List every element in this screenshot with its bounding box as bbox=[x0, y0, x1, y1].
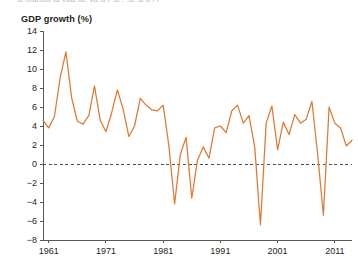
y-tick-label: 14 bbox=[27, 26, 37, 36]
gdp-growth-series-line bbox=[43, 52, 352, 225]
chart-axis-title: GDP growth (%) bbox=[21, 14, 92, 24]
y-tick-label: −6 bbox=[27, 216, 37, 226]
plot-area: −8−6−4−202468101214 19611971198119912001… bbox=[0, 26, 358, 265]
y-tick-label: 4 bbox=[32, 121, 37, 131]
y-tick-label: 10 bbox=[27, 64, 37, 74]
y-tick-label: −8 bbox=[27, 235, 37, 245]
x-tick-label: 1991 bbox=[210, 246, 230, 256]
y-tick-label: 12 bbox=[27, 45, 37, 55]
y-axis-ticks: −8−6−4−202468101214 bbox=[27, 26, 43, 245]
x-tick-label: 1971 bbox=[96, 246, 116, 256]
cropped-header-text: a manao la vaa la. va g j .a , .a. a g j… bbox=[18, 0, 358, 2]
x-tick-label: 1981 bbox=[153, 246, 173, 256]
x-tick-label: 1961 bbox=[39, 246, 59, 256]
x-tick-label: 2011 bbox=[325, 246, 344, 256]
line-chart-svg: −8−6−4−202468101214 19611971198119912001… bbox=[0, 26, 358, 265]
x-tick-label: 2001 bbox=[268, 246, 288, 256]
y-tick-label: 8 bbox=[32, 83, 37, 93]
y-tick-label: −4 bbox=[27, 197, 37, 207]
y-tick-label: 2 bbox=[32, 140, 37, 150]
x-axis-ticks: 196119711981199120012011 bbox=[39, 240, 345, 256]
gdp-growth-figure: a manao la vaa la. va g j .a , .a. a g j… bbox=[0, 0, 358, 265]
y-tick-label: 0 bbox=[32, 159, 37, 169]
y-tick-label: −2 bbox=[27, 178, 37, 188]
y-tick-label: 6 bbox=[32, 102, 37, 112]
